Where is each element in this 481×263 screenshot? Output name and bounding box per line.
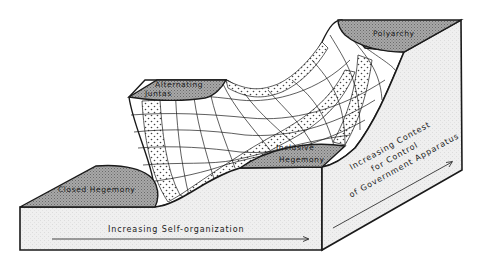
label-juntas: Juntas [144, 89, 172, 98]
label-closed-hegemony: Closed Hegemony [58, 185, 135, 194]
label-polyarchy: Polyarchy [373, 29, 415, 38]
label-inclusive: Inclusive [276, 143, 314, 152]
label-hegemony: Hegemony [279, 155, 325, 164]
label-alternating: Alternating [155, 80, 203, 89]
axis-self-organization-label: Increasing Self-organization [108, 225, 244, 234]
landscape-block-diagram: Closed Hegemony Alternating Juntas Inclu… [0, 0, 481, 263]
